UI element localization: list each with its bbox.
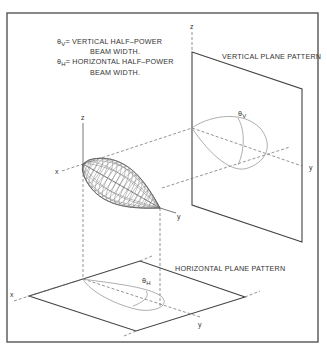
vp-projection: [162, 147, 290, 188]
vp-beamwidth-arc: [238, 118, 243, 165]
beam-mesh: [82, 158, 160, 208]
vertical-plane-label: VERTICAL PLANE PATTERN: [222, 52, 321, 61]
hp-x-label: x: [10, 291, 14, 298]
vertical-plane: z VERTICAL PLANE PATTERN y θV: [162, 23, 321, 242]
horizontal-plane-label: HORIZONTAL PLANE PATTERN: [175, 264, 285, 273]
theta-v-label: θV: [238, 109, 246, 119]
legend: θV= VERTICAL HALF–POWER BEAM WIDTH. θH= …: [57, 37, 174, 77]
hp-bottom-ext: [124, 331, 136, 336]
legend-theta-h-cont: BEAM WIDTH.: [90, 68, 140, 77]
vp-y-label: y: [309, 164, 313, 172]
y-axis: [160, 208, 176, 213]
hp-beamwidth-arc: [133, 291, 147, 306]
antenna-pattern-diagram: θV= VERTICAL HALF–POWER BEAM WIDTH. θH= …: [0, 0, 327, 351]
vp-y-axis: [192, 128, 302, 166]
vp-lobe: [192, 116, 267, 169]
beam-3d: z x y: [55, 114, 192, 306]
y-label: y: [177, 213, 181, 221]
vp-outline: [192, 52, 302, 242]
x-axis-back: [62, 164, 83, 171]
theta-h-label: θH: [142, 276, 151, 286]
vp-z-label: z: [190, 23, 194, 30]
hp-top-ext: [140, 256, 152, 261]
legend-theta-v: θV= VERTICAL HALF–POWER: [57, 37, 162, 47]
hp-x-axis: [14, 296, 29, 301]
legend-theta-h: θH= HORIZONTAL HALF–POWER: [57, 57, 174, 67]
hp-y-label: y: [198, 321, 202, 329]
z-label: z: [81, 114, 85, 121]
hp-lobe: [83, 279, 164, 310]
legend-theta-v-cont: BEAM WIDTH.: [90, 47, 140, 56]
hp-right-ext: [245, 291, 260, 297]
horizontal-plane: HORIZONTAL PLANE PATTERN x y θH: [10, 256, 285, 336]
x-label: x: [55, 168, 59, 175]
